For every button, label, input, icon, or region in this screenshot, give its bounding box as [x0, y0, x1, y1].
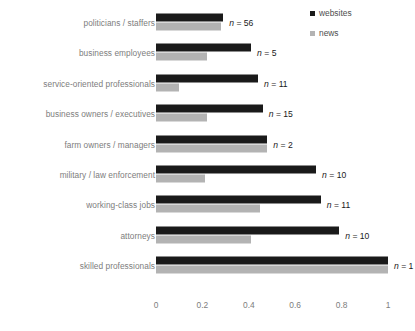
- bar-row: skilled professionalsn = 1: [0, 251, 415, 281]
- bar-news: [156, 53, 207, 61]
- n-annotation: n = 11: [327, 200, 351, 210]
- bar-row: service-oriented professionalsn = 11: [0, 69, 415, 99]
- legend-item-websites[interactable]: websites: [310, 8, 352, 18]
- bar-websites: [156, 257, 388, 265]
- bar-row: military / law enforcementn = 10: [0, 160, 415, 190]
- bar-websites: [156, 44, 251, 52]
- bar-news: [156, 205, 260, 213]
- legend-label: news: [319, 28, 339, 38]
- bar-news: [156, 144, 267, 152]
- bar-chart: politicians / staffersn = 56business emp…: [0, 0, 415, 331]
- category-label: skilled professionals: [3, 261, 155, 271]
- x-axis: 00.20.40.60.81: [156, 300, 388, 320]
- n-annotation: n = 2: [273, 140, 292, 150]
- category-label: politicians / staffers: [3, 18, 155, 28]
- bar-websites: [156, 105, 263, 113]
- x-tick-label: 0.8: [336, 300, 348, 310]
- x-tick-label: 1: [386, 300, 391, 310]
- bar-websites: [156, 196, 321, 204]
- n-annotation: n = 11: [264, 79, 288, 89]
- bar-news: [156, 235, 251, 243]
- bar-news: [156, 83, 179, 91]
- bar-row: attorneysn = 10: [0, 221, 415, 251]
- category-label: farm owners / managers: [3, 140, 155, 150]
- category-label: business owners / executives: [3, 109, 155, 119]
- category-label: military / law enforcement: [3, 170, 155, 180]
- x-tick-label: 0.6: [289, 300, 301, 310]
- bar-row: politicians / staffersn = 56: [0, 8, 415, 38]
- category-label: attorneys: [3, 231, 155, 241]
- category-label: business employees: [3, 48, 155, 58]
- bar-websites: [156, 135, 267, 143]
- x-tick-label: 0.2: [197, 300, 209, 310]
- bar-group: [156, 14, 388, 33]
- bar-row: working-class jobsn = 11: [0, 190, 415, 220]
- news-swatch-icon: [310, 31, 315, 36]
- bar-row: business employeesn = 5: [0, 38, 415, 68]
- chart-legend: websitesnews: [310, 8, 352, 48]
- category-label: service-oriented professionals: [3, 79, 155, 89]
- bar-group: [156, 135, 388, 154]
- n-annotation: n = 10: [322, 170, 346, 180]
- bar-row: business owners / executivesn = 15: [0, 99, 415, 129]
- bar-websites: [156, 226, 339, 234]
- bar-websites: [156, 166, 316, 174]
- category-label: working-class jobs: [3, 200, 155, 210]
- legend-label: websites: [319, 8, 352, 18]
- x-tick-label: 0: [154, 300, 159, 310]
- websites-swatch-icon: [310, 11, 315, 16]
- bar-news: [156, 23, 221, 31]
- bar-group: [156, 166, 388, 185]
- bar-websites: [156, 74, 258, 82]
- bar-group: [156, 196, 388, 215]
- legend-item-news[interactable]: news: [310, 28, 352, 38]
- n-annotation: n = 1: [394, 261, 413, 271]
- n-annotation: n = 15: [269, 109, 293, 119]
- bar-news: [156, 266, 388, 274]
- n-annotation: n = 10: [345, 231, 369, 241]
- bar-row: farm owners / managersn = 2: [0, 130, 415, 160]
- bar-news: [156, 114, 207, 122]
- n-annotation: n = 56: [229, 18, 253, 28]
- bar-news: [156, 175, 205, 183]
- bar-group: [156, 257, 388, 276]
- n-annotation: n = 5: [257, 48, 276, 58]
- bar-websites: [156, 14, 223, 22]
- x-tick-label: 0.4: [243, 300, 255, 310]
